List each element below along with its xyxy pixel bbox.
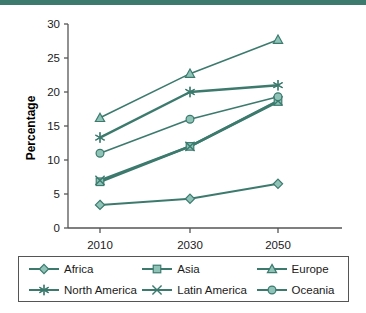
series-markers-north-america	[95, 80, 282, 143]
legend-label-africa: Africa	[61, 263, 93, 275]
circle-marker-icon	[96, 149, 104, 157]
legend-label-north-america: North America	[61, 284, 137, 296]
circle-marker-icon	[274, 93, 282, 101]
line-chart-plot: 051015202530 201020302050 Percentage	[0, 0, 366, 256]
legend-label-asia: Asia	[174, 263, 199, 275]
square-marker-icon	[154, 265, 162, 273]
diamond-marker-icon	[27, 260, 61, 278]
star-marker-icon	[95, 132, 104, 143]
series-markers-africa	[95, 179, 282, 209]
x-tick-label: 2030	[177, 239, 203, 251]
x-axis-ticks: 201020302050	[87, 228, 291, 251]
chart-series-group	[95, 35, 282, 209]
circle-marker-icon	[186, 115, 194, 123]
y-axis-title: Percentage	[24, 95, 38, 160]
star-marker-icon	[27, 281, 61, 299]
y-tick-label: 20	[47, 86, 60, 98]
square-marker-icon	[140, 260, 174, 278]
triangle-marker-icon	[255, 260, 289, 278]
legend-label-oceania: Oceania	[289, 284, 335, 296]
chart-legend: Africa Asia Europe North America Latin A…	[18, 256, 349, 302]
x-marker-icon	[140, 281, 174, 299]
y-tick-label: 30	[47, 18, 60, 30]
legend-item-asia[interactable]: Asia	[140, 258, 254, 279]
legend-item-africa[interactable]: Africa	[19, 258, 140, 279]
y-tick-label: 10	[47, 154, 60, 166]
legend-item-latin-america[interactable]: Latin America	[140, 279, 254, 300]
square-marker-icon	[96, 178, 104, 186]
legend-item-europe[interactable]: Europe	[255, 258, 348, 279]
circle-marker-icon	[268, 286, 276, 294]
x-tick-label: 2050	[265, 239, 291, 251]
legend-label-latin-america: Latin America	[174, 284, 247, 296]
legend-row: North America Latin America Oceania	[19, 279, 348, 300]
y-tick-label: 15	[47, 120, 60, 132]
diamond-marker-icon	[95, 200, 104, 209]
y-tick-label: 5	[54, 188, 60, 200]
legend-row: Africa Asia Europe	[19, 258, 348, 279]
triangle-marker-icon	[273, 35, 282, 43]
x-tick-label: 2010	[87, 239, 113, 251]
diamond-marker-icon	[273, 179, 282, 188]
diamond-marker-icon	[185, 194, 194, 203]
y-tick-label: 25	[47, 52, 60, 64]
chart-figure: 051015202530 201020302050 Percentage Afr…	[0, 0, 366, 313]
series-europe	[100, 40, 278, 118]
diamond-marker-icon	[39, 264, 48, 273]
circle-marker-icon	[255, 281, 289, 299]
legend-item-north-america[interactable]: North America	[19, 279, 140, 300]
series-latin-america	[100, 101, 278, 181]
chart-axes	[68, 24, 342, 228]
legend-item-oceania[interactable]: Oceania	[255, 279, 348, 300]
legend-label-europe: Europe	[289, 263, 329, 275]
y-axis-ticks: 051015202530	[47, 18, 68, 234]
y-tick-label: 0	[54, 222, 60, 234]
triangle-marker-icon	[95, 113, 104, 121]
